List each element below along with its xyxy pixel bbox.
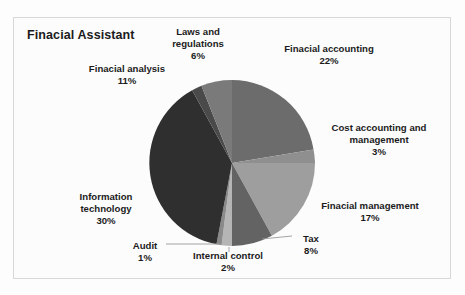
pie-label-tax-line1: Tax (303, 233, 319, 244)
pie-label-finacc-percent: 22% (283, 55, 375, 67)
pie-label-finmgmt-line2: management (360, 200, 419, 211)
pie-label-finanalysis-line1: Finacial analysis (89, 63, 165, 74)
pie-label-internal-percent: 2% (176, 262, 280, 274)
pie-label-finanalysis-percent: 11% (74, 75, 180, 87)
pie-label-cost-line1: Cost accounting (332, 122, 407, 133)
pie-label-cost-percent: 3% (320, 146, 438, 158)
pie-label-cost-line3: management (349, 134, 408, 145)
pie-label-internal-line1: Internal control (193, 250, 263, 261)
pie-label-finmgmt-percent: 17% (318, 212, 422, 224)
pie-slices (149, 80, 315, 246)
pie-chart-figure: Finacial Assistant (0, 0, 465, 295)
pie-label-infotech-line2: technology (80, 203, 131, 214)
pie-label-audit-percent: 1% (124, 252, 166, 264)
pie-label-infotech-line1: Information (80, 191, 133, 202)
pie-label-internal-control: Internal control 2% (176, 250, 280, 274)
pie-label-laws-line2: regulations (172, 38, 224, 49)
pie-label-tax-percent: 8% (293, 245, 329, 257)
pie-label-information-technology: Information technology 30% (58, 191, 154, 228)
pie-label-finacial-accounting: Finacial accounting 22% (283, 43, 375, 67)
pie-label-finmgmt-line1: Finacial (321, 200, 357, 211)
pie-label-finacial-analysis: Finacial analysis 11% (74, 63, 180, 87)
pie-label-audit-line1: Audit (133, 240, 158, 251)
pie-label-infotech-percent: 30% (58, 215, 154, 227)
pie-slice-finacial-accounting (232, 80, 314, 163)
pie-label-finacc-line1: Finacial (284, 43, 320, 54)
pie-label-finacial-management: Finacial management 17% (318, 200, 422, 224)
pie-label-finacc-line2: accounting (323, 43, 374, 54)
pie-label-cost-line2: and (409, 122, 426, 133)
pie-label-audit: Audit 1% (124, 240, 166, 264)
pie-label-laws-and-regulations: Laws and regulations 6% (155, 26, 241, 63)
pie-label-laws-line1: Laws and (176, 26, 220, 37)
pie-label-tax: Tax 8% (293, 233, 329, 257)
pie-label-cost-accounting-and-management: Cost accounting and management 3% (320, 122, 438, 159)
pie-label-laws-percent: 6% (155, 50, 241, 62)
